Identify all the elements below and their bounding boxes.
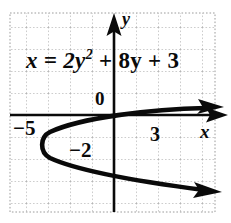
x-intercept-label: 3 <box>150 124 160 144</box>
origin-label: 0 <box>95 89 105 108</box>
vertex-x-label: −5 <box>13 118 35 139</box>
x-axis-label: x <box>200 122 210 141</box>
equation-tail: + 8y + 3 <box>99 48 179 73</box>
coordinate-plane <box>0 0 231 223</box>
graph-figure: x = 2y2 + 8y + 3 0 −5 −2 3 x y <box>0 0 231 223</box>
vertex-y-label: −2 <box>69 140 91 161</box>
y-axis-label: y <box>122 10 130 28</box>
equation-label: x = 2y2 + 8y + 3 <box>26 48 179 72</box>
equation-exponent: 2 <box>86 47 93 62</box>
equation-main: x = 2y <box>26 48 86 73</box>
grid-lines <box>10 13 215 212</box>
